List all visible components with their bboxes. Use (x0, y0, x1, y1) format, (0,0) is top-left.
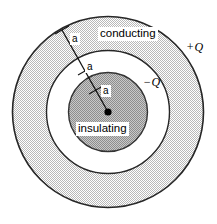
inner-charge-label: −Q (143, 76, 160, 88)
radius-label-mid: a (85, 61, 95, 73)
conducting-shell-label: conducting (98, 27, 158, 41)
outer-charge-label: +Q (186, 41, 203, 53)
radius-label-inner: a (101, 85, 111, 97)
radius-label-outer: a (70, 33, 80, 45)
insulating-sphere-label: insulating (76, 122, 129, 136)
concentric-spheres-diagram: conducting insulating +Q −Q a a a (0, 0, 217, 224)
center-dot (104, 108, 111, 115)
